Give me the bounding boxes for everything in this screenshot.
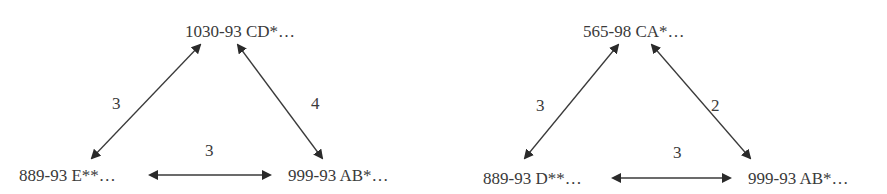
node-top: 1030-93 CD*… — [185, 22, 295, 42]
edge-weight-left: 3 — [112, 94, 121, 114]
edge-weight-bottom: 3 — [205, 141, 214, 161]
node-bottom-right: 999-93 AB*… — [288, 166, 389, 186]
node-bottom-left: 889-93 E**… — [19, 166, 116, 186]
edge-weight-right: 4 — [311, 94, 320, 114]
edge-top-to-bottom-right — [652, 45, 750, 158]
diagram-left: 1030-93 CD*… 889-93 E**… 999-93 AB*… 3 4… — [0, 0, 443, 194]
edge-top-to-bottom-left — [92, 45, 200, 158]
node-bottom-right: 999-93 AB*… — [748, 169, 849, 189]
edge-top-to-bottom-right — [238, 45, 322, 158]
diagram-right: 565-98 CA*… 889-93 D**… 999-93 AB*… 3 2 … — [443, 0, 887, 194]
edge-weight-bottom: 3 — [673, 143, 682, 163]
edge-weight-left: 3 — [536, 96, 545, 116]
node-bottom-left: 889-93 D**… — [483, 169, 582, 189]
edge-weight-right: 2 — [711, 96, 720, 116]
node-top: 565-98 CA*… — [583, 22, 685, 42]
